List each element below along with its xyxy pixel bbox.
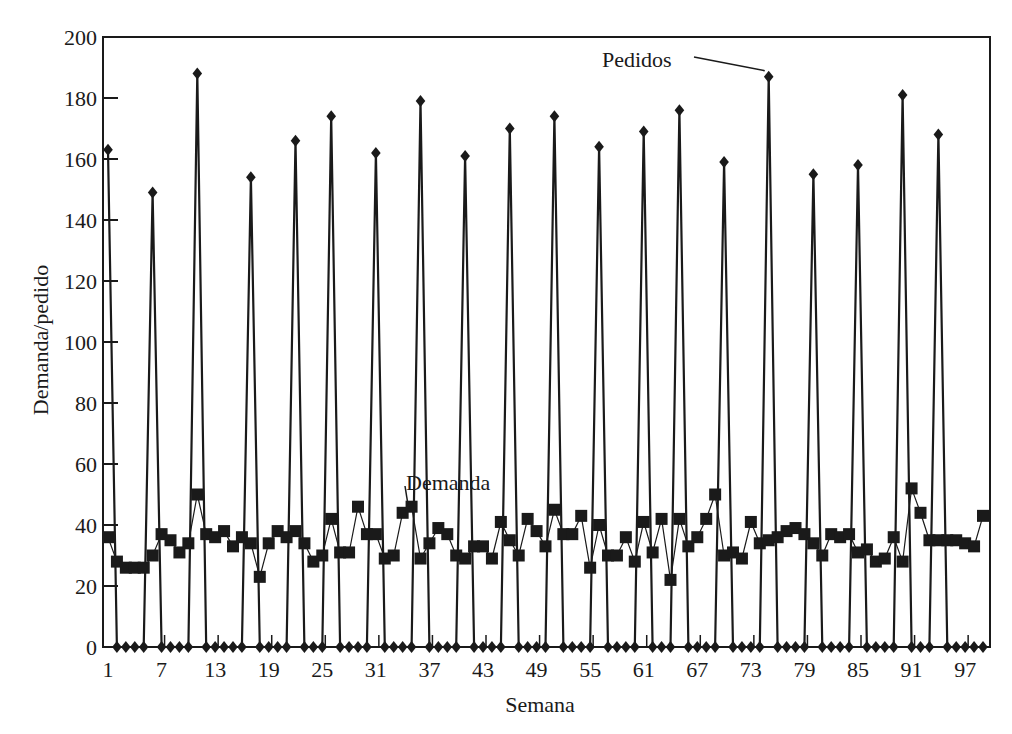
y-tick-label: 0: [86, 635, 97, 660]
pedidos-marker: [871, 641, 881, 653]
demanda-marker: [629, 556, 641, 568]
pedidos-marker: [416, 95, 426, 107]
pedidos-marker: [246, 171, 256, 183]
pedidos-marker: [809, 168, 819, 180]
demanda-marker: [218, 525, 230, 537]
x-axis-title: Semana: [505, 692, 575, 717]
pedidos-marker: [326, 110, 336, 122]
pedidos-marker: [934, 129, 944, 141]
demanda-marker: [182, 537, 194, 549]
series-pedidos: [103, 68, 988, 653]
chart: 020406080100120140160180200 171319253137…: [0, 0, 1012, 734]
demanda-marker: [843, 528, 855, 540]
pedidos-marker: [255, 641, 265, 653]
annotation-pedidos-leader: [694, 57, 765, 71]
pedidos-marker: [835, 641, 845, 653]
pedidos-marker: [603, 641, 613, 653]
pedidos-marker: [434, 641, 444, 653]
pedidos-marker: [942, 641, 952, 653]
pedidos-marker: [594, 141, 604, 153]
demanda-marker: [352, 501, 364, 513]
demanda-marker: [290, 525, 302, 537]
pedidos-marker: [567, 641, 577, 653]
x-tick-label: 91: [901, 657, 923, 682]
demanda-marker: [486, 553, 498, 565]
pedidos-marker: [192, 68, 202, 80]
demanda-marker: [138, 562, 150, 574]
pedidos-marker: [925, 641, 935, 653]
pedidos-marker: [898, 89, 908, 101]
y-axis-title: Demanda/pedido: [28, 265, 53, 415]
pedidos-marker: [576, 641, 586, 653]
x-tick-label: 43: [472, 657, 494, 682]
pedidos-marker: [880, 641, 890, 653]
pedidos-marker: [398, 641, 408, 653]
pedidos-marker: [666, 641, 676, 653]
pedidos-marker: [371, 147, 381, 159]
annotation-demanda: Demanda: [406, 470, 491, 495]
pedidos-marker: [817, 641, 827, 653]
demanda-marker: [316, 550, 328, 562]
demanda-marker: [977, 510, 989, 522]
pedidos-marker: [844, 641, 854, 653]
demanda-marker: [459, 553, 471, 565]
x-tick-label: 37: [418, 657, 440, 682]
demanda-marker: [245, 537, 257, 549]
x-tick-label: 13: [204, 657, 226, 682]
x-tick-label: 85: [847, 657, 869, 682]
pedidos-marker: [175, 641, 185, 653]
demanda-marker: [102, 531, 114, 543]
demanda-marker: [656, 513, 668, 525]
y-tick-label: 120: [64, 269, 97, 294]
pedidos-marker: [139, 641, 149, 653]
pedidos-marker: [782, 641, 792, 653]
pedidos-marker: [916, 641, 926, 653]
demanda-marker: [611, 550, 623, 562]
demanda-marker: [915, 507, 927, 519]
demanda-marker: [441, 528, 453, 540]
demanda-marker: [593, 519, 605, 531]
pedidos-marker: [514, 641, 524, 653]
pedidos-marker: [282, 641, 292, 653]
pedidos-marker: [407, 641, 417, 653]
pedidos-marker: [103, 144, 113, 156]
demanda-marker: [575, 510, 587, 522]
pedidos-marker: [728, 641, 738, 653]
x-tick-label: 73: [740, 657, 762, 682]
demanda-marker: [522, 513, 534, 525]
demanda-marker: [647, 546, 659, 558]
pedidos-marker: [764, 71, 774, 83]
x-tick-label: 97: [954, 657, 976, 682]
demanda-marker: [968, 540, 980, 552]
y-axis: 020406080100120140160180200: [64, 25, 118, 660]
pedidos-marker: [523, 641, 533, 653]
pedidos-marker: [219, 641, 229, 653]
demanda-marker: [906, 482, 918, 494]
demanda-marker: [147, 550, 159, 562]
pedidos-marker: [612, 641, 622, 653]
pedidos-marker: [460, 150, 470, 162]
demanda-marker: [897, 556, 909, 568]
demanda-marker: [673, 513, 685, 525]
pedidos-marker: [300, 641, 310, 653]
demanda-marker: [816, 550, 828, 562]
x-tick-label: 55: [579, 657, 601, 682]
demanda-marker: [513, 550, 525, 562]
pedidos-marker: [550, 110, 560, 122]
x-tick-label: 31: [365, 657, 387, 682]
demanda-marker: [540, 540, 552, 552]
pedidos-marker: [710, 641, 720, 653]
y-tick-label: 80: [75, 391, 97, 416]
x-tick-label: 49: [526, 657, 548, 682]
pedidos-marker: [675, 104, 685, 116]
demanda-marker: [343, 546, 355, 558]
pedidos-marker: [344, 641, 354, 653]
pedidos-marker: [505, 123, 515, 135]
pedidos-marker: [362, 641, 372, 653]
pedidos-marker: [496, 641, 506, 653]
x-tick-label: 67: [686, 657, 708, 682]
demanda-marker: [620, 531, 632, 543]
pedidos-marker: [684, 641, 694, 653]
pedidos-marker: [121, 641, 131, 653]
pedidos-marker: [184, 641, 194, 653]
